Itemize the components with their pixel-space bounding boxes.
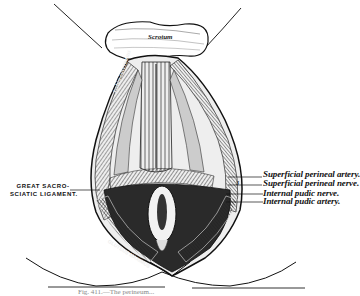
label-great-sacro-sciatic-ligament: GREAT SACRO- SCIATIC LIGAMENT. <box>10 182 76 198</box>
marker-3-label: 3 <box>236 180 239 186</box>
label-line-1: GREAT SACRO- <box>10 182 76 190</box>
scrotum-label: Scrotum <box>148 33 173 41</box>
label-superficial-perineal-nerve: Superficial perineal nerve. <box>263 178 359 188</box>
figure-caption: Fig. 411.—The perineum... <box>78 288 154 296</box>
label-line-2: SCIATIC LIGAMENT. <box>10 190 76 198</box>
label-internal-pudic-artery: Internal pudic artery. <box>263 196 340 206</box>
